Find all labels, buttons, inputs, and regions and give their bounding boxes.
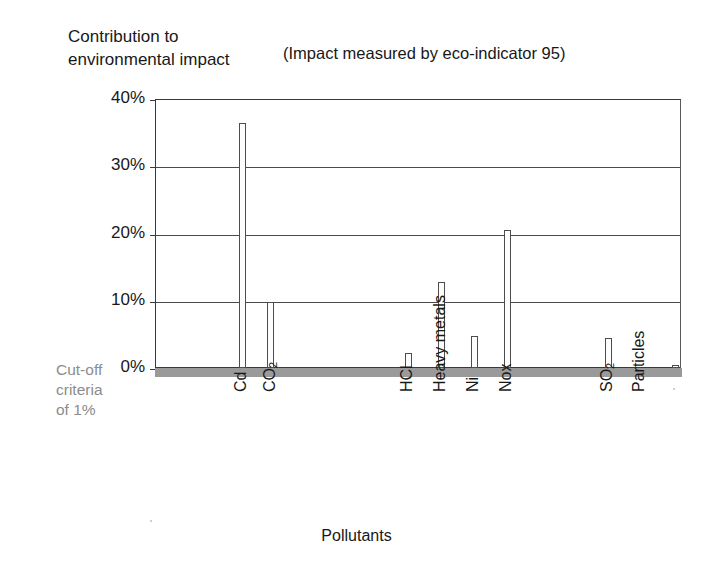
gridline-30% [156, 167, 680, 168]
x-axis-label-nox: Nox [497, 364, 515, 392]
y-tick-mark [150, 100, 156, 101]
x-axis-title: Pollutants [0, 527, 713, 545]
bar-nox [504, 230, 511, 368]
chart-container: Contribution to environmental impact (Im… [0, 0, 713, 575]
scan-artifact [150, 520, 152, 522]
x-axis-label-so2: SO2 [598, 363, 616, 392]
bar-co2 [267, 302, 274, 368]
gridline-10% [156, 302, 680, 303]
scan-artifact [673, 388, 675, 390]
bar-cd [239, 123, 246, 368]
plot-area [155, 99, 681, 368]
x-axis-label-heavy-metals: Heavy metals [431, 295, 449, 392]
x-axis-label-particles: Particles [630, 331, 648, 392]
chart-title: Contribution to environmental impact [68, 26, 230, 72]
y-axis-tick-label: 20% [83, 223, 145, 243]
y-tick-mark [150, 235, 156, 236]
y-axis-tick-label: 10% [83, 290, 145, 310]
y-axis-tick-label: 40% [83, 88, 145, 108]
x-axis-label-cd: Cd [232, 372, 250, 392]
x-axis-label-co2: CO2 [261, 362, 279, 392]
x-axis-label-hcl: HCl [398, 365, 416, 392]
x-axis-label-ni: Ni [464, 377, 482, 392]
chart-subtitle: (Impact measured by eco-indicator 95) [283, 44, 565, 63]
y-axis-tick-label: 30% [83, 155, 145, 175]
y-tick-mark [150, 167, 156, 168]
y-tick-mark [150, 302, 156, 303]
cutoff-criteria-label: Cut-off criteria of 1% [56, 360, 103, 420]
bar-ni [471, 336, 478, 368]
gridline-20% [156, 235, 680, 236]
